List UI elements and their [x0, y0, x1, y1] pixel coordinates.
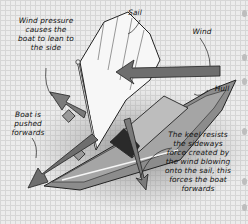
label-boat-pushed: Boat is pushed forwards	[6, 110, 50, 137]
label-wind-pressure: Wind pressure causes the boat to lean to…	[16, 16, 76, 52]
wind-arrow	[116, 60, 220, 84]
label-hull: Hull	[212, 84, 232, 93]
label-keel: The keel resists the sideways force crea…	[164, 130, 232, 193]
label-sail: Sail	[124, 8, 146, 17]
sailboat-diagram: Wind pressure causes the boat to lean to…	[0, 0, 248, 224]
notebook-holes	[240, 0, 248, 224]
label-wind: Wind	[190, 27, 214, 36]
